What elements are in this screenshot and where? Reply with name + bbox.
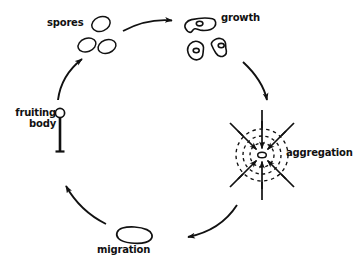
stage-label-growth: growth	[221, 13, 260, 24]
arrow-spores-to-growth	[123, 20, 172, 31]
cycle-diagram-canvas	[0, 0, 361, 272]
stage-label-spores: spores	[47, 18, 83, 29]
life-cycle-diagram: spores growth aggregation migration frui…	[0, 0, 361, 272]
stage-label-fruiting-body-line2: body	[8, 119, 56, 130]
fruiting-body-icon	[55, 108, 64, 151]
stage-label-aggregation: aggregation	[286, 148, 353, 159]
slug-icon	[117, 227, 152, 243]
arrow-fruiting-body-to-spores	[58, 59, 82, 100]
stage-label-fruiting-body-line1: fruiting	[8, 108, 56, 119]
amoeba-cells-icon	[185, 18, 226, 60]
stage-label-fruiting-body: fruiting body	[8, 108, 56, 129]
aggregation-rings-icon	[230, 110, 294, 200]
stage-label-migration: migration	[97, 245, 150, 256]
arrow-growth-to-aggregation	[243, 62, 267, 100]
arrow-aggregation-to-migration	[188, 205, 237, 237]
arrow-migration-to-fruiting-body	[66, 186, 106, 224]
